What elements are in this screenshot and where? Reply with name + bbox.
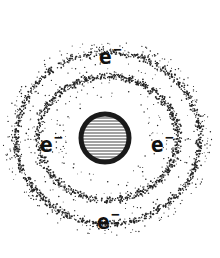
electron-label-bottom: e− [97,205,121,233]
nucleus [81,114,129,162]
electron-label-left: e− [40,128,64,156]
electron-label-right: e− [151,128,175,156]
electron-label-top: e− [99,40,123,68]
